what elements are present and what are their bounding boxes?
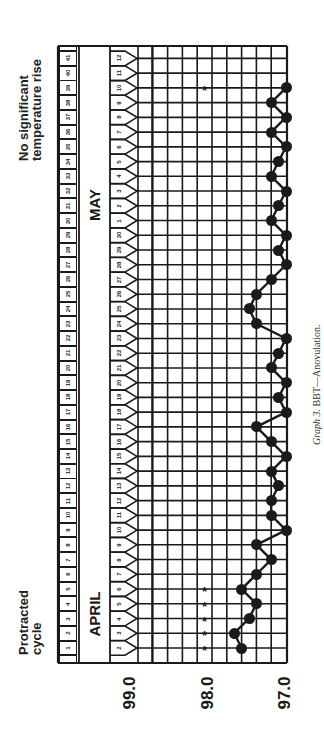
bbt-data-point bbox=[236, 584, 247, 595]
bbt-data-point bbox=[281, 230, 292, 241]
date-label: 24 bbox=[110, 316, 138, 331]
cycle-day-cell: 13 bbox=[59, 464, 77, 479]
bbt-data-point bbox=[266, 97, 277, 108]
bbt-data-point bbox=[281, 451, 292, 462]
bbt-data-point bbox=[266, 127, 277, 138]
date-label: 3 bbox=[110, 626, 138, 641]
cycle-day-cell: 38 bbox=[59, 95, 77, 110]
cycle-day-cell: 40 bbox=[59, 66, 77, 81]
bbt-data-point bbox=[273, 348, 284, 359]
date-label: 26 bbox=[110, 287, 138, 302]
cycle-day-number: 34 bbox=[65, 158, 71, 165]
date-number: 25 bbox=[116, 306, 122, 313]
date-label: 25 bbox=[110, 301, 138, 316]
cycle-day-number: 40 bbox=[65, 70, 71, 77]
cycle-day-number: 16 bbox=[65, 424, 71, 431]
date-number: 8 bbox=[116, 116, 122, 119]
graph-caption: Graph 3. BBT—Anovulation. bbox=[311, 305, 324, 445]
cycle-day-number: 26 bbox=[65, 276, 71, 283]
date-number: 24 bbox=[116, 320, 122, 327]
cycle-day-cell: 36 bbox=[59, 125, 77, 140]
cycle-day-number: 8 bbox=[65, 543, 71, 546]
date-label: 16 bbox=[110, 434, 138, 449]
date-label: 30 bbox=[110, 228, 138, 243]
cycle-day-cell: 41 bbox=[59, 51, 77, 66]
date-number: 8 bbox=[116, 558, 122, 561]
date-number: 22 bbox=[116, 350, 122, 357]
date-label: 18 bbox=[110, 405, 138, 420]
date-number: 20 bbox=[116, 379, 122, 386]
cycle-day-number: 25 bbox=[65, 291, 71, 298]
date-label: 28 bbox=[110, 257, 138, 272]
date-number: 11 bbox=[116, 512, 122, 518]
cycle-day-cell: 29 bbox=[59, 228, 77, 243]
cycle-day-number: 32 bbox=[65, 188, 71, 195]
cycle-day-number: 41 bbox=[65, 55, 71, 62]
cycle-day-number: 13 bbox=[65, 468, 71, 475]
date-label: 10 bbox=[110, 80, 138, 95]
cycle-day-number: 18 bbox=[65, 394, 71, 401]
date-number: 2 bbox=[116, 204, 122, 207]
date-number: 17 bbox=[116, 424, 122, 431]
cycle-day-number: 33 bbox=[65, 173, 71, 180]
date-label: 4 bbox=[110, 611, 138, 626]
cycle-day-cell-empty bbox=[59, 655, 77, 663]
cycle-day-cell: 19 bbox=[59, 375, 77, 390]
cycle-day-number: 5 bbox=[65, 587, 71, 590]
date-number: 28 bbox=[116, 261, 122, 268]
cycle-day-number: 35 bbox=[65, 143, 71, 150]
cycle-day-cell: 5 bbox=[59, 582, 77, 597]
bbt-data-point bbox=[281, 259, 292, 270]
cycle-day-cell: 12 bbox=[59, 478, 77, 493]
cycle-day-cell: 30 bbox=[59, 213, 77, 228]
cycle-day-number: 9 bbox=[65, 528, 71, 531]
date-number: 19 bbox=[116, 394, 122, 401]
cycle-day-number: 37 bbox=[65, 114, 71, 121]
date-label: 3 bbox=[110, 184, 138, 199]
date-label: 10 bbox=[110, 523, 138, 538]
date-number: 5 bbox=[116, 602, 122, 605]
cycle-day-number: 38 bbox=[65, 99, 71, 106]
cycle-day-number: 36 bbox=[65, 129, 71, 136]
cycle-day-number: 24 bbox=[65, 306, 71, 313]
date-number: 12 bbox=[116, 497, 122, 504]
date-number: 23 bbox=[116, 335, 122, 342]
cycle-day-number: 6 bbox=[65, 573, 71, 576]
date-number: 13 bbox=[116, 483, 122, 490]
cycle-day-cell: 28 bbox=[59, 243, 77, 258]
date-number: 30 bbox=[116, 232, 122, 239]
date-label: 11 bbox=[110, 66, 138, 81]
date-label: 27 bbox=[110, 272, 138, 287]
bbt-data-point bbox=[266, 436, 277, 447]
date-label: 8 bbox=[110, 110, 138, 125]
cycle-day-number: 23 bbox=[65, 320, 71, 327]
cycle-day-cell: 4 bbox=[59, 596, 77, 611]
cycle-day-cell: 24 bbox=[59, 302, 77, 317]
cycle-day-number: 15 bbox=[65, 438, 71, 445]
bbt-data-point bbox=[281, 82, 292, 93]
caption-graph-number: Graph 3. bbox=[311, 409, 322, 445]
cycle-day-cell: 33 bbox=[59, 169, 77, 184]
date-label: 29 bbox=[110, 243, 138, 258]
date-label: 7 bbox=[110, 567, 138, 582]
date-label: 5 bbox=[110, 596, 138, 611]
bbt-data-point bbox=[281, 186, 292, 197]
cycle-day-number: 2 bbox=[65, 632, 71, 635]
bbt-chart: 1223344556677889910101111121213131414151… bbox=[0, 0, 324, 751]
chart-grid bbox=[0, 0, 324, 751]
date-number: 7 bbox=[116, 130, 122, 133]
date-number: 10 bbox=[116, 85, 122, 92]
cycle-day-cell: 2 bbox=[59, 626, 77, 641]
date-label: 13 bbox=[110, 478, 138, 493]
date-number: 27 bbox=[116, 276, 122, 283]
bbt-data-point bbox=[244, 303, 255, 314]
cycle-day-cell: 22 bbox=[59, 331, 77, 346]
month-label-april: APRIL bbox=[86, 589, 104, 639]
bbt-data-point bbox=[266, 466, 277, 477]
cycle-day-number: 3 bbox=[65, 617, 71, 620]
cycle-day-cell-empty bbox=[59, 46, 77, 51]
date-number: 16 bbox=[116, 438, 122, 445]
cycle-day-cell: 32 bbox=[59, 184, 77, 199]
date-label: 23 bbox=[110, 331, 138, 346]
cycle-day-number: 1 bbox=[65, 646, 71, 649]
